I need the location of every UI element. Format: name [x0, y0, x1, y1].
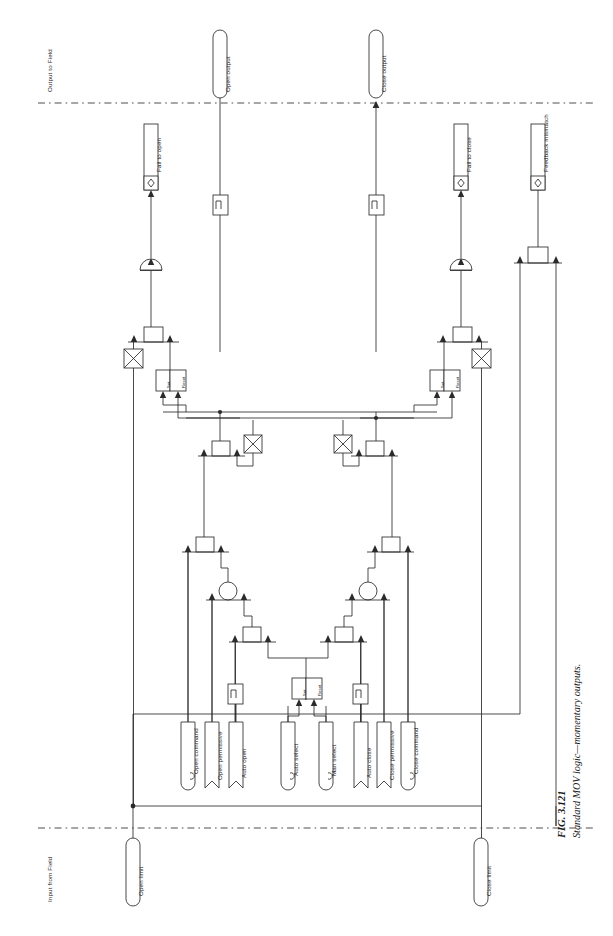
close-permissive-label: Close permissive — [388, 730, 395, 780]
close-latch-reset-label: Reset — [455, 377, 460, 388]
open-select-and-gate — [243, 627, 261, 642]
or-input-arrow — [209, 593, 215, 600]
and-input-arrow — [553, 256, 559, 263]
fail-to-open-arrow — [148, 190, 154, 197]
open-limit-label: Open limit — [137, 867, 144, 896]
close-latch-reset-wire — [360, 398, 452, 418]
open-latch-set-label: Set — [166, 382, 171, 388]
figure-canvas: Output to Field Input from Field Open ou… — [0, 0, 613, 936]
input-zone-label: Input from Field — [46, 857, 53, 902]
close-mid-and-gate — [366, 441, 384, 456]
latch-reset-arrow — [449, 391, 455, 398]
fail-to-close-label: Fail to close — [465, 137, 472, 172]
close-output-label: Close output — [380, 55, 387, 92]
open-mid-and-in-right — [237, 456, 253, 466]
output-zone-label: Output to Field — [46, 49, 53, 92]
close-select-and-in-left — [306, 642, 328, 658]
or-input-arrow — [241, 593, 247, 600]
close-or-gate — [359, 582, 377, 600]
open-latch-set-wire — [163, 398, 186, 412]
mov-logic-diagram — [0, 0, 613, 936]
close-lower-and-in-left — [368, 552, 375, 582]
close-mid-and-in-left — [343, 456, 359, 466]
and-input-arrow — [356, 449, 362, 456]
close-output-arrow — [373, 101, 380, 108]
feedback-mismatch-label: Feedback mismatch — [542, 114, 549, 172]
close-limit-label: Close limit — [485, 866, 492, 896]
or-input-arrow — [381, 593, 387, 600]
open-upper-and-gate — [144, 327, 163, 342]
open-lower-and-in-right — [221, 552, 228, 582]
open-output-label: Open output — [224, 56, 231, 92]
open-latch-reset-wire — [178, 398, 240, 418]
and-input-arrow — [389, 449, 395, 456]
figure-caption-text: Standard MOV logic—momentary outputs. — [571, 664, 582, 838]
and-input-arrow — [232, 635, 238, 642]
and-input-arrow — [201, 449, 207, 456]
fail-to-open-label: Fail to open — [155, 138, 162, 172]
and-input-arrow — [358, 635, 364, 642]
feedback-and-gate — [528, 247, 548, 263]
latch-set-arrow — [434, 391, 440, 398]
and-input-arrow — [440, 335, 446, 342]
open-lower-and-gate — [196, 537, 214, 552]
and-input-arrow — [405, 545, 411, 552]
open-pulse-block — [213, 195, 228, 215]
figure-number: FIG. 3.121 — [556, 790, 567, 838]
close-select-and-gate — [335, 627, 353, 642]
select-latch-set-label: Set — [302, 690, 307, 696]
latch-set-arrow — [160, 391, 166, 398]
close-latch-set-wire — [414, 398, 437, 412]
and-input-arrow — [265, 635, 271, 642]
and-input-arrow — [517, 256, 523, 263]
close-upper-and-gate — [453, 327, 472, 342]
and-input-arrow — [131, 335, 137, 342]
latch-reset-arrow — [311, 699, 317, 706]
open-or-gate — [219, 582, 237, 600]
man-select-label: Man select — [330, 745, 337, 776]
close-or-in-left — [344, 600, 352, 628]
and-input-arrow — [476, 335, 482, 342]
and-input-arrow — [167, 335, 173, 342]
open-command-label: Open command — [192, 728, 199, 774]
open-mid-and-gate — [212, 441, 230, 456]
latch-set-arrow — [296, 699, 302, 706]
open-select-and-in-right — [268, 642, 306, 658]
close-pulse-block — [369, 195, 384, 215]
and-input-arrow — [372, 545, 378, 552]
and-input-arrow — [218, 545, 224, 552]
open-permissive-label: Open permissive — [216, 731, 223, 780]
close-lower-and-gate — [382, 537, 400, 552]
open-latch-reset-label: Reset — [181, 377, 186, 388]
close-command-label: Close command — [412, 727, 419, 774]
select-latch-reset-label: Reset — [317, 685, 322, 696]
auto-select-label: Auto select — [292, 744, 299, 776]
auto-open-label: Auto open — [240, 748, 247, 778]
latch-reset-arrow — [175, 391, 181, 398]
and-input-arrow — [234, 449, 240, 456]
fail-to-close-arrow — [458, 190, 464, 197]
close-latch-set-label: Set — [440, 382, 445, 388]
auto-close-label: Auto close — [365, 748, 372, 778]
and-input-arrow — [325, 635, 331, 642]
auto-close-pulse-block — [353, 684, 368, 704]
and-input-arrow — [185, 545, 191, 552]
open-or-in-right — [244, 600, 252, 628]
auto-open-pulse-block — [228, 684, 243, 704]
or-input-arrow — [349, 593, 355, 600]
